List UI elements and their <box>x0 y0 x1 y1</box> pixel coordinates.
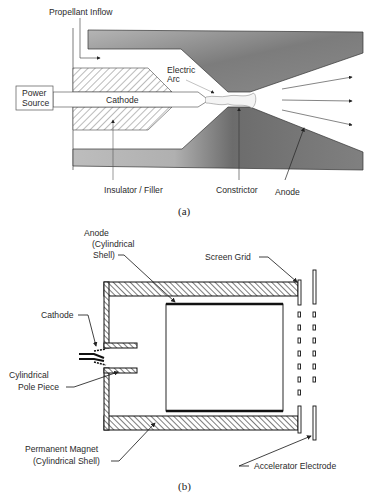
screen-grid-leader <box>259 257 297 282</box>
cathode-label: Cathode <box>41 310 74 320</box>
power-source-label-2: Source <box>22 98 49 108</box>
constrictor-label: Constrictor <box>216 185 258 195</box>
electric-arc <box>206 93 256 108</box>
anode-label-3: Shell) <box>93 250 115 260</box>
anode-label: Anode <box>275 187 300 197</box>
exhaust-arrow-down <box>282 110 352 125</box>
accelerator-electrode <box>313 270 316 440</box>
diagram-canvas: Power Source Cathode Propellant Inflow E… <box>0 0 372 498</box>
propellant-inflow-label: Propellant Inflow <box>49 7 113 17</box>
back-wall-upper <box>104 282 109 348</box>
anode-cylinder <box>166 304 283 411</box>
electric-arc-leader <box>186 80 214 93</box>
magnet-label-2: (Cylindrical Shell) <box>33 456 100 466</box>
pole-piece-leader <box>66 372 118 387</box>
pole-piece-label-2: Pole Piece <box>18 382 59 392</box>
figure-a-arcjet: Power Source Cathode Propellant Inflow E… <box>16 7 363 218</box>
cathode-assembly <box>79 349 106 365</box>
screen-grid-label: Screen Grid <box>205 252 251 262</box>
screen-grid <box>298 280 301 433</box>
power-source-label-1: Power <box>22 88 46 98</box>
cathode-leader <box>78 315 96 346</box>
insulator-lower <box>73 107 172 130</box>
back-wall-lower <box>104 368 109 430</box>
pole-piece-label-1: Cylindrical <box>9 370 49 380</box>
magnet-shell-top <box>104 282 298 296</box>
insulator-label: Insulator / Filler <box>104 185 163 195</box>
pole-piece-upper <box>104 343 137 348</box>
figure-b-ion-thruster: Anode (Cylindrical Shell) Screen Grid Ca… <box>9 228 336 493</box>
accelerator-electrode-label: Accelerator Electrode <box>254 461 336 471</box>
exhaust-arrow-mid <box>282 100 352 101</box>
figure-b-caption: (b) <box>178 480 191 493</box>
magnet-label-1: Permanent Magnet <box>25 444 99 454</box>
exhaust-arrow-up <box>282 77 352 89</box>
cathode-label: Cathode <box>106 95 139 105</box>
magnet-shell-bottom <box>104 416 298 430</box>
figure-a-caption: (a) <box>178 205 191 218</box>
anode-label-1: Anode <box>84 228 109 238</box>
anode-label-2: (Cylindrical <box>92 239 135 249</box>
pole-piece-lower <box>104 368 137 373</box>
electric-arc-label-2: Arc <box>167 74 181 84</box>
insulator-upper <box>73 68 172 92</box>
